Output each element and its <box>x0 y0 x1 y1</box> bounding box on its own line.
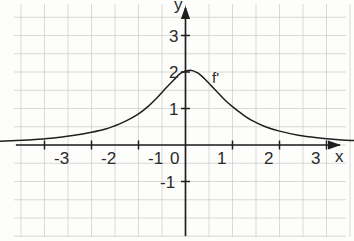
y-tick-label--1: -1 <box>160 174 175 191</box>
y-tick-label-2: 2 <box>169 64 178 81</box>
x-tick-label--3: -3 <box>54 150 69 167</box>
y-axis-label: y <box>174 0 183 13</box>
axes <box>16 6 341 236</box>
graph-figure: -3 -2 -1 0 1 2 3 3 2 1 -1 y x f' <box>0 0 354 241</box>
x-tick-label-2: 2 <box>264 150 273 167</box>
x-tick-label-3: 3 <box>311 150 320 167</box>
curve-label-f-prime: f' <box>212 70 219 85</box>
x-tick-label-1: 1 <box>217 150 226 167</box>
x-tick-label-0: 0 <box>170 150 179 167</box>
x-axis-label: x <box>335 148 344 165</box>
x-tick-label--1: -1 <box>148 150 163 167</box>
x-tick-label--2: -2 <box>101 150 116 167</box>
y-tick-label-1: 1 <box>169 101 178 118</box>
y-tick-label-3: 3 <box>169 28 178 45</box>
